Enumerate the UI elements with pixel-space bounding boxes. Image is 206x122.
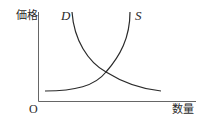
supply-curve <box>45 12 130 91</box>
demand-curve <box>72 12 161 91</box>
y-axis-label: 価格 <box>16 10 38 22</box>
origin-label: O <box>29 103 38 115</box>
supply-curve-label: S <box>135 10 142 22</box>
demand-curve-label: D <box>61 10 70 22</box>
x-axis-label: 数量 <box>172 104 194 116</box>
